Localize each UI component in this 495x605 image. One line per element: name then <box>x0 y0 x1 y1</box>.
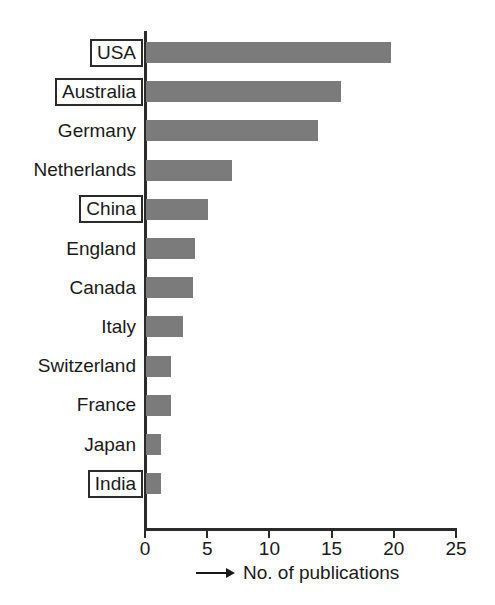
x-tick-label-10: 10 <box>259 538 280 560</box>
category-label-china: China <box>79 195 143 223</box>
bar-row: India <box>0 464 495 503</box>
category-label-france: France <box>70 391 143 419</box>
category-label-wrap: Japan <box>77 425 143 464</box>
x-tick-label-15: 15 <box>321 538 342 560</box>
x-axis-title: No. of publications <box>196 562 399 583</box>
category-label-wrap: USA <box>90 33 143 72</box>
bar-row: USA <box>0 33 495 72</box>
category-label-wrap: Netherlands <box>27 151 143 190</box>
bar-switzerland <box>146 356 171 377</box>
category-label-canada: Canada <box>62 274 143 302</box>
bar-row: Germany <box>0 111 495 150</box>
category-label-japan: Japan <box>77 431 143 459</box>
bar-japan <box>146 434 161 455</box>
category-label-switzerland: Switzerland <box>31 352 143 380</box>
category-label-usa: USA <box>90 39 143 67</box>
category-label-wrap: France <box>70 386 143 425</box>
x-tick-15 <box>331 531 333 538</box>
x-tick-label-0: 0 <box>140 538 151 560</box>
bar-india <box>146 473 161 494</box>
bar-canada <box>146 277 193 298</box>
category-label-wrap: Germany <box>51 111 143 150</box>
x-axis-line <box>144 528 457 531</box>
x-tick-20 <box>393 531 395 538</box>
category-label-wrap: Canada <box>62 268 143 307</box>
category-label-wrap: Italy <box>94 307 143 346</box>
bar-row: France <box>0 386 495 425</box>
bar-row: England <box>0 229 495 268</box>
bar-row: Japan <box>0 425 495 464</box>
bar-germany <box>146 120 318 141</box>
bar-row: Canada <box>0 268 495 307</box>
bar-row: China <box>0 190 495 229</box>
x-axis-title-label: No. of publications <box>243 562 399 583</box>
bar-australia <box>146 81 341 102</box>
category-label-wrap: India <box>88 464 143 503</box>
x-tick-0 <box>144 531 146 538</box>
right-arrow-icon <box>196 567 236 579</box>
x-tick-5 <box>206 531 208 538</box>
bar-row: Australia <box>0 72 495 111</box>
publications-bar-chart: 0510152025 USAAustraliaGermanyNetherland… <box>0 0 495 605</box>
bar-italy <box>146 316 183 337</box>
category-label-india: India <box>88 470 143 498</box>
bar-netherlands <box>146 160 232 181</box>
category-label-australia: Australia <box>55 78 143 106</box>
category-label-italy: Italy <box>94 313 143 341</box>
x-tick-label-20: 20 <box>383 538 404 560</box>
category-label-wrap: England <box>59 229 143 268</box>
category-label-england: England <box>59 235 143 263</box>
category-label-netherlands: Netherlands <box>27 156 143 184</box>
category-label-germany: Germany <box>51 117 143 145</box>
bar-row: Italy <box>0 307 495 346</box>
bar-france <box>146 395 171 416</box>
x-tick-10 <box>268 531 270 538</box>
plot-area: 0510152025 USAAustraliaGermanyNetherland… <box>0 0 495 605</box>
category-label-wrap: China <box>79 190 143 229</box>
bar-china <box>146 199 208 220</box>
x-tick-25 <box>455 531 457 538</box>
category-label-wrap: Australia <box>55 72 143 111</box>
bar-usa <box>146 42 391 63</box>
x-tick-label-5: 5 <box>202 538 213 560</box>
bar-row: Netherlands <box>0 151 495 190</box>
category-label-wrap: Switzerland <box>31 347 143 386</box>
bar-england <box>146 238 195 259</box>
bar-row: Switzerland <box>0 347 495 386</box>
x-tick-label-25: 25 <box>445 538 466 560</box>
